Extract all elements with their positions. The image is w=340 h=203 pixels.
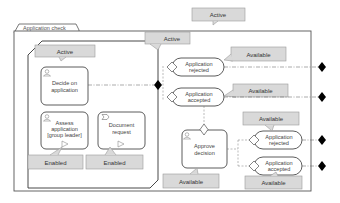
exit-sentry-icon[interactable] (318, 161, 326, 171)
milestone-state-label: Available (261, 180, 286, 186)
milestone-label-line: rejected (269, 140, 289, 146)
task-decide-on-application[interactable]: Decide on application (41, 67, 88, 105)
task-label-line: application (51, 87, 78, 93)
milestone-label-line: rejected (189, 67, 209, 73)
task-state-label: Enabled (44, 160, 66, 166)
task-document-request[interactable]: Document request (98, 112, 145, 149)
milestone-state-label: Available (248, 88, 273, 94)
milestone-application-rejected-2[interactable]: Application rejected (249, 131, 302, 149)
exit-sentry-icon[interactable] (318, 62, 326, 72)
case-title: Application check (23, 25, 66, 31)
task-state-label: Enabled (103, 160, 125, 166)
milestone-state-label: Available (259, 116, 284, 122)
cmmn-diagram: Application check Active Active Active D… (0, 0, 340, 203)
milestone-label-line: accepted (268, 166, 291, 172)
task-label-line: Decide on (52, 80, 77, 86)
case-state-tag: Active (192, 8, 245, 25)
case-state-label: Active (210, 12, 227, 18)
milestone-label-line: accepted (188, 97, 211, 103)
task-label-line: Document (109, 122, 135, 128)
exit-sentry-icon[interactable] (318, 92, 326, 102)
exit-sentry-icon[interactable] (318, 135, 326, 145)
exit-state-label: Active (164, 36, 181, 42)
task-state-label: Available (179, 179, 204, 185)
stage-state-label: Active (57, 49, 74, 55)
milestone-state-label: Available (246, 52, 271, 58)
task-label-line: request (112, 129, 131, 135)
task-label-line: Approve (194, 143, 215, 149)
task-label-line: [group leader] (47, 132, 82, 138)
milestone-application-rejected[interactable]: Application rejected (167, 58, 224, 76)
milestone-state-tag: Available (224, 47, 286, 61)
task-approve-decision[interactable]: Approve decision (182, 124, 227, 168)
milestone-state-tag: Available (224, 84, 288, 97)
task-assess-application[interactable]: Assess application [group leader] (41, 112, 88, 149)
task-label-line: decision (194, 150, 215, 156)
milestone-application-accepted[interactable]: Application accepted (167, 88, 224, 106)
